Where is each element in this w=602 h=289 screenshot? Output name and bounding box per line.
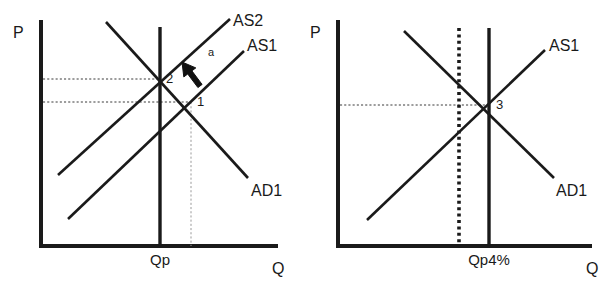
curve-ad1 xyxy=(106,22,248,178)
curve-ad1 xyxy=(404,31,554,178)
diagram-canvas: AS2AS1AD1a21QpPQAS1AD13Qp4%PQ xyxy=(0,0,602,289)
panel-right: AS1AD13Qp4%PQ xyxy=(310,22,598,277)
panel-left: AS2AS1AD1a21QpPQ xyxy=(13,12,284,277)
point-label-1: 1 xyxy=(197,94,204,109)
economics-diagram: AS2AS1AD1a21QpPQAS1AD13Qp4%PQ xyxy=(0,0,602,289)
point-label-3: 3 xyxy=(496,97,503,112)
tick-label-qp4-: Qp4% xyxy=(468,251,510,268)
curve-label-ad1: AD1 xyxy=(556,182,587,199)
shift-arrow xyxy=(182,62,202,88)
curve-label-ad1: AD1 xyxy=(251,182,282,199)
annotation-label-a: a xyxy=(208,46,215,58)
curve-label-as1: AS1 xyxy=(247,37,277,54)
point-label-2: 2 xyxy=(166,71,173,86)
curve-label-as2: AS2 xyxy=(233,12,263,29)
curve-as1 xyxy=(367,50,545,220)
curve-label-as1: AS1 xyxy=(549,37,579,54)
axis-label-p: P xyxy=(310,24,321,41)
axis-label-q: Q xyxy=(272,260,284,277)
axis-label-q: Q xyxy=(586,260,598,277)
tick-label-qp: Qp xyxy=(150,251,170,268)
axis-label-p: P xyxy=(13,24,24,41)
